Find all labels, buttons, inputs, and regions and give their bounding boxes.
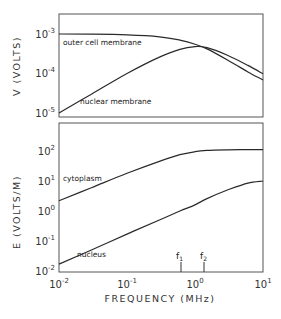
label-cytoplasm: cytoplasm [63,174,102,183]
xtick-1e1: 101 [254,277,271,290]
xtick-1e-2: 10-2 [49,277,69,290]
f2-label: f2 [200,251,207,262]
bottom-y-axis-label: E (VOLTS/M) [11,175,22,249]
top-ytick-1e-4: 10-4 [35,66,55,79]
bottom-panel-curves [59,150,263,265]
figure: f1 f2 outer cell membrane nuclear membra… [0,0,281,319]
top-ytick-1e-3: 10-3 [35,27,55,40]
bottom-ytick-1e2: 102 [38,144,55,157]
top-ytick-1e-5: 10-5 [35,106,55,119]
bottom-ytick-1e-1: 10-1 [35,234,55,247]
xtick-1e0: 100 [186,277,203,290]
bottom-ytick-1e1: 101 [38,174,55,187]
label-nucleus: nucleus [77,250,106,259]
label-nuclear-membrane: nuclear membrane [80,97,152,106]
label-outer-cell-membrane: outer cell membrane [63,38,142,47]
top-y-axis-label: V (VOLTS) [11,36,22,96]
xtick-1e-1: 10-1 [117,277,137,290]
bottom-ytick-1e-2: 10-2 [35,264,55,277]
f1-label: f1 [176,251,183,262]
bottom-ytick-1e0: 100 [38,204,55,217]
x-axis-label: FREQUENCY (MHz) [104,293,215,304]
